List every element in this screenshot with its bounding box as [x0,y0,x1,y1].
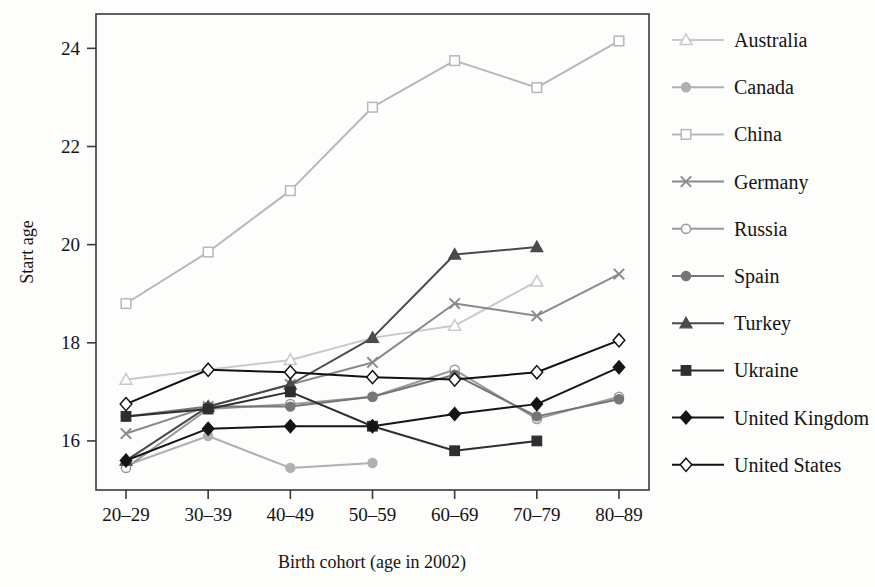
data-point-marker [367,371,379,384]
series-turkey [120,241,543,465]
data-point-marker [368,102,378,112]
data-point-marker [614,269,624,279]
legend-item-russia[interactable]: Russia [672,218,787,240]
y-tick-label: 18 [61,332,80,353]
data-point-marker [681,224,690,233]
legend-item-china[interactable]: China [672,123,782,145]
data-point-marker [449,320,461,331]
legend-item-turkey[interactable]: Turkey [672,312,791,335]
legend-label: Canada [734,76,794,98]
legend-label: United States [734,454,841,476]
x-tick-label: 80–89 [595,504,643,525]
data-point-marker [614,36,624,46]
legend-label: Russia [734,218,787,240]
data-point-marker [286,387,296,397]
y-tick-label: 24 [61,38,81,59]
plot-frame [96,14,649,490]
y-axis: 1618202224 [61,38,96,452]
x-axis: 20–2930–3940–4950–5960–6970–7980–89 [102,490,643,525]
line-chart-canvas: 1618202224 20–2930–3940–4950–5960–6970–7… [0,0,875,587]
legend-label: Spain [734,265,780,288]
data-point-marker [532,412,541,421]
legend-label: United Kingdom [734,407,869,430]
x-tick-label: 50–59 [349,504,397,525]
data-point-marker [368,458,377,467]
data-point-marker [681,130,691,140]
data-point-marker [681,366,691,376]
data-point-marker [681,271,690,280]
series-line [126,281,537,379]
data-point-marker [286,463,295,472]
data-point-marker [450,56,460,66]
legend-item-canada[interactable]: Canada [672,76,794,98]
legend-label: Ukraine [734,359,799,381]
x-tick-label: 20–29 [102,504,150,525]
series-line [126,247,537,460]
legend-item-spain[interactable]: Spain [672,265,780,288]
data-series-group [120,36,625,472]
data-point-marker [121,412,131,422]
data-point-marker [120,398,132,411]
data-point-marker [121,428,131,438]
x-tick-label: 70–79 [513,504,561,525]
x-axis-title: Birth cohort (age in 2002) [278,552,466,573]
data-point-marker [531,398,543,411]
x-tick-label: 40–49 [267,504,315,525]
data-point-marker [531,366,543,379]
y-axis-title: Start age [17,220,37,283]
data-point-marker [203,404,213,414]
data-point-marker [613,361,625,374]
legend-item-ukraine[interactable]: Ukraine [672,359,799,381]
data-point-marker [613,334,625,347]
series-line [126,41,619,304]
legend-label: Germany [734,171,808,194]
legend-item-united-states[interactable]: United States [672,454,841,476]
data-point-marker [121,299,131,309]
data-point-marker [285,420,297,433]
data-point-marker [531,241,543,252]
chart-legend: AustraliaCanadaChinaGermanyRussiaSpainTu… [672,29,869,476]
y-tick-label: 22 [61,136,80,157]
x-tick-label: 30–39 [184,504,232,525]
data-point-marker [532,436,542,446]
chart-figure: 1618202224 20–2930–3940–4950–5960–6970–7… [0,0,875,587]
series-china [121,36,624,308]
legend-label: China [734,123,782,145]
data-point-marker [532,83,542,93]
data-point-marker [286,186,296,196]
series-australia [120,275,543,384]
legend-item-germany[interactable]: Germany [672,171,808,194]
data-point-marker [202,363,214,376]
x-tick-label: 60–69 [431,504,479,525]
data-point-marker [449,407,461,420]
legend-item-united-kingdom[interactable]: United Kingdom [672,407,869,430]
legend-label: Australia [734,29,807,51]
data-point-marker [368,392,377,401]
data-point-marker [680,458,692,471]
data-point-marker [203,247,213,257]
data-point-marker [531,275,543,286]
y-tick-label: 16 [61,430,80,451]
data-point-marker [450,446,460,456]
data-point-marker [614,395,623,404]
data-point-marker [286,402,295,411]
legend-label: Turkey [734,312,791,335]
data-point-marker [681,83,690,92]
legend-item-australia[interactable]: Australia [672,29,807,51]
data-point-marker [680,411,692,424]
data-point-marker [285,366,297,379]
y-tick-label: 20 [61,234,80,255]
